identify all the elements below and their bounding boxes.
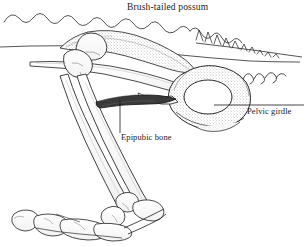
femur — [60, 74, 131, 211]
skeleton-illustration — [0, 0, 306, 247]
vertebral-spines — [196, 30, 279, 58]
pelvic-girdle-label: Pelvic girdle — [247, 107, 292, 116]
epipubic-bone-label: Epipubic bone — [121, 133, 172, 142]
epipubic-bone — [96, 94, 176, 108]
pelvic-girdle — [168, 66, 250, 132]
figure-title: Brush-tailed possum — [127, 3, 208, 13]
anatomical-figure: Brush-tailed possum Pelvic girdle Epipub… — [0, 0, 306, 247]
